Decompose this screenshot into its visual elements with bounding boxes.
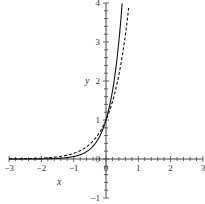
x-tick-label: −2 [37, 163, 47, 173]
y-tick-label: −1 [90, 193, 100, 203]
dashed-curve [9, 8, 129, 159]
x-tick-label: 3 [201, 163, 205, 173]
y-tick-label: 3 [96, 37, 101, 47]
plot-area: −3−2−1123−1012340xy [0, 0, 205, 204]
x-tick-label: −3 [4, 163, 14, 173]
x-tick-label: 1 [136, 163, 141, 173]
x-axis-label: x [56, 176, 62, 187]
y-tick-label: 4 [96, 0, 101, 8]
y-tick-label: 2 [96, 76, 101, 86]
chart: −3−2−1123−1012340xy [0, 0, 205, 204]
origin-label: 0 [104, 163, 109, 173]
x-tick-label: 2 [168, 163, 173, 173]
y-axis-label: y [84, 75, 90, 86]
x-tick-label: −1 [69, 163, 79, 173]
y-tick-label: 1 [96, 115, 101, 125]
y-tick-label: 0 [96, 154, 101, 164]
